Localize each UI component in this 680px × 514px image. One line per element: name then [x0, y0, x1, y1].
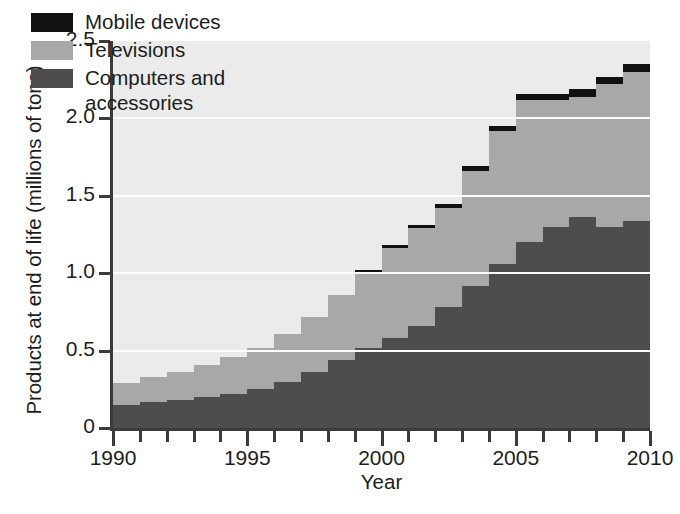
x-axis-tick-major	[381, 431, 384, 446]
x-axis-tick-major	[246, 431, 249, 446]
legend-label: Mobile devices	[85, 9, 221, 34]
legend-swatch	[31, 41, 73, 60]
legend-item: Televisions	[31, 37, 225, 62]
y-axis-tick	[99, 195, 110, 198]
y-axis-tick-label: 1.0	[40, 259, 95, 283]
x-axis-tick-minor	[595, 431, 598, 442]
gridline	[113, 195, 650, 197]
x-axis-tick-minor	[488, 431, 491, 442]
x-axis-tick-minor	[166, 431, 169, 442]
x-axis-title: Year	[113, 470, 650, 494]
legend-label: Computers and accessories	[85, 65, 225, 115]
x-axis-tick-label: 1995	[207, 446, 287, 470]
x-axis-tick-major	[515, 431, 518, 446]
y-axis-tick	[99, 272, 110, 275]
y-axis-tick-label: 1.5	[40, 182, 95, 206]
x-axis-tick-minor	[273, 431, 276, 442]
x-axis-tick-minor	[219, 431, 222, 442]
gridline	[113, 272, 650, 274]
y-axis-tick	[99, 350, 110, 353]
y-axis-tick-label: 0	[40, 414, 95, 438]
x-axis-tick-major	[649, 431, 652, 446]
x-axis-tick-label: 1990	[73, 446, 153, 470]
x-axis-tick-major	[112, 431, 115, 446]
x-axis-tick-minor	[622, 431, 625, 442]
x-axis-tick-minor	[193, 431, 196, 442]
legend-swatch	[31, 13, 73, 32]
legend-item: Computers and accessories	[31, 65, 225, 115]
legend-label: Televisions	[85, 37, 185, 62]
x-axis-tick-label: 2005	[476, 446, 556, 470]
x-axis-tick-minor	[327, 431, 330, 442]
x-axis-tick-minor	[139, 431, 142, 442]
x-axis-tick-label: 2010	[610, 446, 680, 470]
x-axis-tick-minor	[461, 431, 464, 442]
legend-swatch	[31, 69, 73, 88]
legend-item: Mobile devices	[31, 9, 225, 34]
x-axis-tick-label: 2000	[342, 446, 422, 470]
chart-figure: Products at end of life (millions of ton…	[0, 0, 680, 514]
x-axis-tick-minor	[542, 431, 545, 442]
x-axis-tick-minor	[354, 431, 357, 442]
x-axis-tick-minor	[300, 431, 303, 442]
y-axis-tick	[99, 427, 110, 430]
chart-legend: Mobile devicesTelevisionsComputers and a…	[31, 9, 225, 118]
y-axis-tick-label: 0.5	[40, 337, 95, 361]
gridline	[113, 350, 650, 352]
x-axis-tick-minor	[407, 431, 410, 442]
x-axis-tick-minor	[568, 431, 571, 442]
x-axis-tick-minor	[434, 431, 437, 442]
